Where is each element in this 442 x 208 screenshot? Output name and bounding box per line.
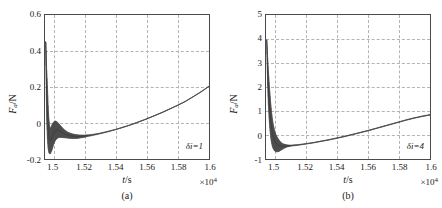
- x-axis-title-panel-a: t/s: [44, 174, 210, 185]
- annotation-rest-b: i=4: [411, 141, 424, 151]
- subplot-caption-a: (a): [44, 190, 210, 201]
- x-tick-b-2: 1.54: [329, 162, 345, 172]
- x-tick-b-3: 1.56: [360, 162, 376, 172]
- plot-area-panel-a: δi=1: [44, 14, 210, 160]
- x-tick-a-5: 1.6: [204, 162, 215, 172]
- y-tick-a-3: 0: [37, 119, 42, 128]
- y-tick-b-1: 4: [258, 34, 263, 43]
- y-axis-tick-labels-panel-a: 0.6 0.4 0.2 0 -0.2: [0, 14, 41, 160]
- annotation-delta-i-panel-a: δi=1: [186, 141, 203, 151]
- y-tick-a-2: 0.2: [30, 83, 41, 92]
- x-multiplier-base-a: ×10: [199, 177, 213, 187]
- y-tick-b-4: 1: [258, 107, 263, 116]
- x-tick-a-4: 1.58: [171, 162, 187, 172]
- data-series-panel-b: [266, 15, 430, 159]
- y-tick-b-3: 2: [258, 83, 263, 92]
- y-tick-a-4: -0.2: [27, 156, 41, 165]
- y-tick-b-0: 5: [258, 10, 263, 19]
- x-tick-a-3: 1.56: [139, 162, 155, 172]
- subplot-caption-b: (b): [265, 190, 431, 201]
- panel-a: Fa/N 0.6 0.4 0.2 0 -0.2 δi=1: [0, 0, 221, 208]
- x-multiplier-base-b: ×10: [420, 177, 434, 187]
- x-axis-title-unit-b: /s: [346, 174, 353, 185]
- x-tick-b-0: 1.5: [268, 162, 279, 172]
- x-axis-multiplier-panel-a: ×104: [199, 176, 217, 187]
- x-multiplier-exponent-a: 4: [214, 176, 218, 184]
- panel-b: Fa/N 5 4 3 2 1 0 -1 δi=4: [221, 0, 442, 208]
- y-tick-b-6: -1: [255, 156, 263, 165]
- x-tick-b-5: 1.6: [425, 162, 436, 172]
- annotation-delta-i-panel-b: δi=4: [407, 141, 424, 151]
- plot-area-panel-b: δi=4: [265, 14, 431, 160]
- y-axis-tick-labels-panel-b: 5 4 3 2 1 0 -1: [221, 14, 262, 160]
- x-tick-a-2: 1.54: [108, 162, 124, 172]
- figure-two-panel-force-plots: Fa/N 0.6 0.4 0.2 0 -0.2 δi=1: [0, 0, 442, 208]
- x-tick-b-1: 1.52: [297, 162, 313, 172]
- y-tick-b-5: 0: [258, 131, 263, 140]
- x-tick-a-1: 1.52: [76, 162, 92, 172]
- annotation-rest-a: i=1: [190, 141, 203, 151]
- x-tick-a-0: 1.5: [47, 162, 58, 172]
- x-axis-multiplier-panel-b: ×104: [420, 176, 438, 187]
- y-tick-b-2: 3: [258, 58, 263, 67]
- x-axis-title-unit-a: /s: [125, 174, 132, 185]
- x-axis-title-panel-b: t/s: [265, 174, 431, 185]
- y-tick-a-0: 0.6: [30, 10, 41, 19]
- x-multiplier-exponent-b: 4: [435, 176, 439, 184]
- y-tick-a-1: 0.4: [30, 46, 41, 55]
- x-tick-b-4: 1.58: [392, 162, 408, 172]
- data-series-panel-a: [45, 15, 209, 159]
